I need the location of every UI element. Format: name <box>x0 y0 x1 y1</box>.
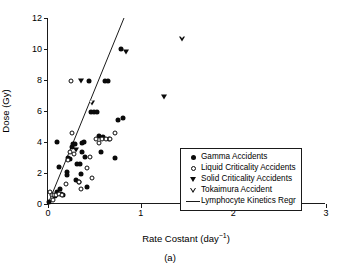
data-points-layer <box>48 18 325 28</box>
legend-symbol-line-icon <box>185 201 201 202</box>
y-tick-label: 2 <box>37 169 42 178</box>
y-tick-label: 10 <box>32 45 42 54</box>
legend-item: Tokaimura Accident <box>185 185 296 196</box>
legend-item: Solid Criticality Accidents <box>185 174 296 185</box>
data-point <box>98 150 103 155</box>
x-tick-label: 1 <box>138 209 143 218</box>
data-point <box>72 141 77 146</box>
data-point <box>66 157 71 162</box>
y-tick <box>44 49 48 50</box>
data-point <box>55 140 60 145</box>
y-tick-label: 8 <box>37 76 42 85</box>
y-tick-label: 4 <box>37 138 42 147</box>
data-point <box>70 131 75 136</box>
data-point <box>179 36 185 41</box>
legend-label: Tokaimura Accident <box>201 186 272 194</box>
legend-label: Liquid Criticality Accidents <box>201 164 296 172</box>
y-tick <box>44 142 48 143</box>
data-point <box>82 140 87 145</box>
data-point <box>78 78 84 83</box>
y-axis-label: Dose (Gy) <box>0 89 11 132</box>
data-point <box>112 155 117 160</box>
legend-label: Solid Criticality Accidents <box>201 175 292 183</box>
y-tick-label: 12 <box>32 14 42 23</box>
data-point <box>84 184 89 189</box>
legend-symbol-open-triangle-down-icon <box>185 188 201 193</box>
data-point <box>50 198 55 203</box>
legend-symbol-filled-triangle-down-icon <box>185 177 201 182</box>
legend-item: Liquid Criticality Accidents <box>185 163 296 174</box>
data-point <box>57 164 62 169</box>
data-point <box>89 176 94 181</box>
data-point <box>89 101 95 106</box>
data-point <box>79 187 84 192</box>
legend-label: Lymphocyte Kinetics Regr <box>201 197 296 205</box>
legend-item: Lymphocyte Kinetics Regr <box>185 196 296 207</box>
data-point <box>59 192 64 197</box>
data-point <box>121 115 126 120</box>
data-point <box>87 154 92 159</box>
legend-symbol-open-circle-icon <box>185 166 201 171</box>
figure-caption: (a) <box>164 252 176 263</box>
data-point <box>123 50 129 55</box>
legend-label: Gamma Accidents <box>201 153 267 161</box>
data-point <box>69 78 74 83</box>
data-point <box>112 131 117 136</box>
figure-panel-a: Dose (Gy) Rate Costant (day−1) (a) 02468… <box>0 0 347 272</box>
data-point <box>161 95 167 100</box>
y-tick-label: 6 <box>37 107 42 116</box>
data-point <box>79 171 84 176</box>
data-point <box>65 173 70 178</box>
y-tick-label: 0 <box>37 200 42 209</box>
legend: Gamma AccidentsLiquid Criticality Accide… <box>180 148 302 211</box>
data-point <box>86 78 91 83</box>
data-point <box>78 162 83 167</box>
data-point <box>95 109 100 114</box>
legend-symbol-filled-circle-icon <box>185 155 201 160</box>
y-tick <box>44 173 48 174</box>
x-axis-label: Rate Costant (day−1) <box>142 232 230 244</box>
y-tick <box>44 80 48 81</box>
x-tick-label: 0 <box>45 209 50 218</box>
x-tick-label: 3 <box>323 209 328 218</box>
data-point <box>84 166 89 171</box>
y-tick <box>44 18 48 19</box>
legend-item: Gamma Accidents <box>185 152 296 163</box>
data-point <box>106 78 111 83</box>
data-point <box>63 181 68 186</box>
data-point <box>73 147 79 152</box>
y-tick <box>44 111 48 112</box>
data-point <box>76 180 81 185</box>
data-point <box>108 136 113 141</box>
